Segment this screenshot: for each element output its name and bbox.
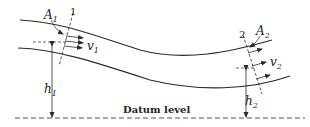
label-h1: h1 bbox=[44, 82, 57, 98]
stream-tube-diagram: A1 1 v1 h1 2 A2 v2 h2 Datum level bbox=[0, 0, 310, 127]
label-v1: v1 bbox=[87, 39, 99, 55]
label-section-2: 2 bbox=[239, 29, 245, 40]
label-h2: h2 bbox=[245, 94, 258, 110]
label-A2: A2 bbox=[255, 24, 270, 40]
velocity-arrows-2 bbox=[248, 49, 270, 79]
lower-tube-wall bbox=[18, 48, 290, 88]
label-section-1: 1 bbox=[70, 6, 76, 17]
label-A1: A1 bbox=[43, 8, 58, 24]
upper-tube-wall bbox=[20, 20, 272, 55]
label-v2: v2 bbox=[270, 55, 282, 71]
section-1-line bbox=[59, 13, 73, 66]
datum-label: Datum level bbox=[123, 104, 190, 115]
